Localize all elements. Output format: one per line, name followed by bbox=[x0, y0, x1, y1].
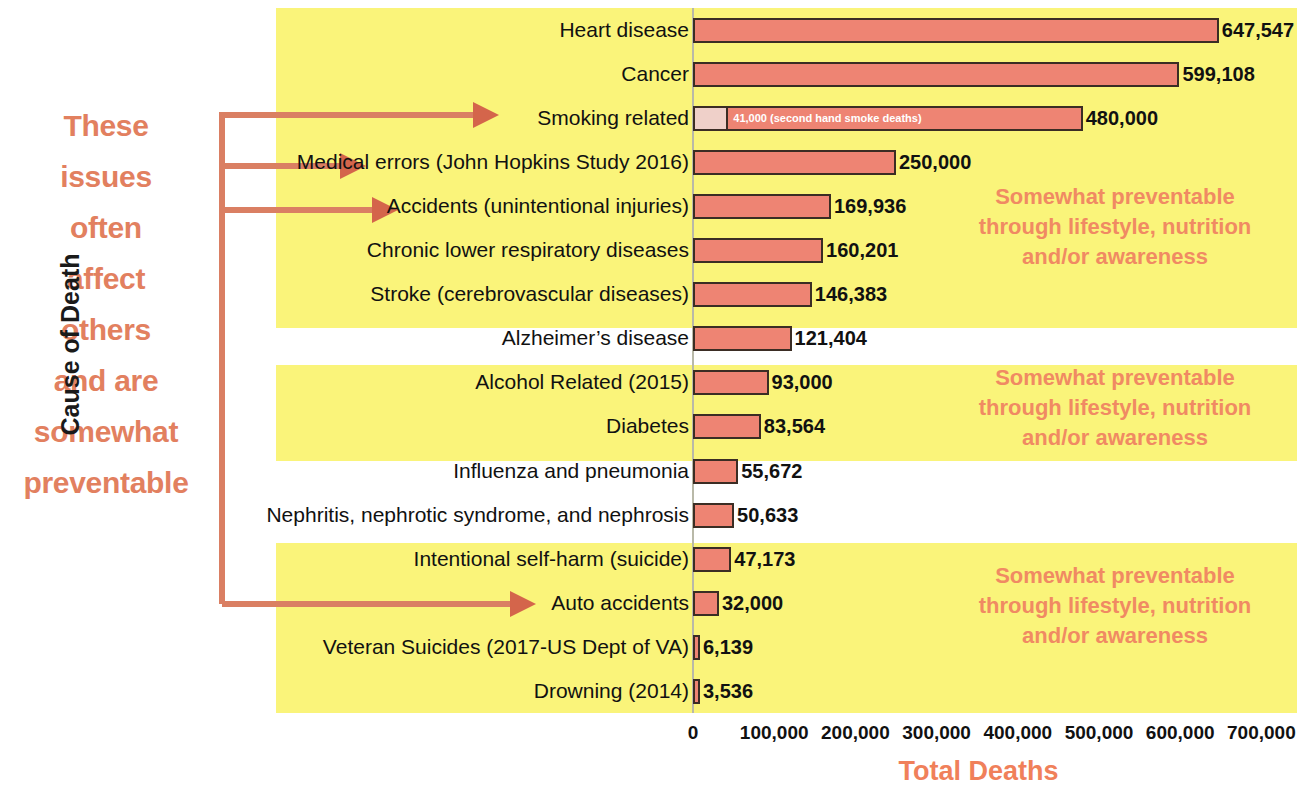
right-annotation-line: through lifestyle, nutrition bbox=[940, 393, 1290, 423]
bar-value-label: 93,000 bbox=[769, 370, 833, 395]
bar-row: Stroke (cerebrovascular diseases)146,383 bbox=[0, 272, 1297, 316]
x-axis-tick-label: 500,000 bbox=[1065, 722, 1134, 744]
bar: 41,000 (second hand smoke deaths) bbox=[693, 106, 1083, 131]
x-axis-tick-label: 0 bbox=[688, 722, 699, 744]
x-axis-tick-label: 300,000 bbox=[902, 722, 971, 744]
category-label: Drowning (2014) bbox=[534, 669, 689, 713]
category-label: Smoking related bbox=[537, 96, 689, 140]
bar bbox=[693, 459, 738, 484]
bar-row: Heart disease647,547 bbox=[0, 8, 1297, 52]
bar bbox=[693, 18, 1219, 43]
bar-row: Cancer599,108 bbox=[0, 52, 1297, 96]
bar-sub-segment-label: 41,000 (second hand smoke deaths) bbox=[728, 108, 921, 129]
bar-value-label: 47,173 bbox=[731, 547, 795, 572]
category-label: Veteran Suicides (2017-US Dept of VA) bbox=[323, 625, 689, 669]
bar bbox=[693, 238, 823, 263]
right-annotation-line: and/or awareness bbox=[940, 621, 1290, 651]
bar bbox=[693, 194, 831, 219]
bar-value-label: 50,633 bbox=[734, 503, 798, 528]
right-annotation-line: through lifestyle, nutrition bbox=[940, 212, 1290, 242]
bar bbox=[693, 62, 1179, 87]
category-label: Cancer bbox=[621, 52, 689, 96]
bar-value-label: 480,000 bbox=[1083, 106, 1158, 131]
bar-value-label: 121,404 bbox=[792, 326, 867, 351]
bar bbox=[693, 635, 700, 660]
x-axis-tick-label: 200,000 bbox=[821, 722, 890, 744]
x-axis-tick-label: 600,000 bbox=[1146, 722, 1215, 744]
right-annotation-1: Somewhat preventable through lifestyle, … bbox=[940, 182, 1290, 272]
bar-value-label: 55,672 bbox=[738, 459, 802, 484]
bar bbox=[693, 370, 769, 395]
bar-sub-segment bbox=[695, 108, 728, 129]
bar bbox=[693, 547, 731, 572]
bar-value-label: 647,547 bbox=[1219, 18, 1294, 43]
bar bbox=[693, 150, 896, 175]
x-axis-tick-label: 400,000 bbox=[983, 722, 1052, 744]
category-label: Alzheimer’s disease bbox=[502, 316, 689, 360]
bar-row: Influenza and pneumonia55,672 bbox=[0, 449, 1297, 493]
bar-value-label: 599,108 bbox=[1179, 62, 1254, 87]
bar-value-label: 32,000 bbox=[719, 591, 783, 616]
right-annotation-line: and/or awareness bbox=[940, 242, 1290, 272]
bar-row: Medical errors (John Hopkins Study 2016)… bbox=[0, 140, 1297, 184]
category-label: Influenza and pneumonia bbox=[453, 449, 689, 493]
category-label: Medical errors (John Hopkins Study 2016) bbox=[297, 140, 689, 184]
bar bbox=[693, 282, 812, 307]
bar-value-label: 6,139 bbox=[700, 635, 753, 660]
category-label: Stroke (cerebrovascular diseases) bbox=[370, 272, 689, 316]
bar-value-label: 146,383 bbox=[812, 282, 887, 307]
bar-row: Alzheimer’s disease121,404 bbox=[0, 316, 1297, 360]
bar bbox=[693, 591, 719, 616]
bar-row: Nephritis, nephrotic syndrome, and nephr… bbox=[0, 493, 1297, 537]
category-label: Accidents (unintentional injuries) bbox=[387, 184, 689, 228]
category-label: Diabetes bbox=[606, 404, 689, 448]
x-axis-tick-label: 700,000 bbox=[1227, 722, 1296, 744]
category-label: Auto accidents bbox=[551, 581, 689, 625]
bar-row: Drowning (2014)3,536 bbox=[0, 669, 1297, 713]
right-annotation-line: Somewhat preventable bbox=[940, 182, 1290, 212]
category-label: Chronic lower respiratory diseases bbox=[367, 228, 689, 272]
right-annotation-line: through lifestyle, nutrition bbox=[940, 591, 1290, 621]
x-axis-tick-label: 100,000 bbox=[740, 722, 809, 744]
right-annotation-line: Somewhat preventable bbox=[940, 561, 1290, 591]
bar-value-label: 83,564 bbox=[761, 414, 825, 439]
category-label: Intentional self-harm (suicide) bbox=[414, 537, 689, 581]
x-axis-ticks: 0100,000200,000300,000400,000500,000600,… bbox=[0, 722, 1297, 750]
bar-row: Smoking related41,000 (second hand smoke… bbox=[0, 96, 1297, 140]
right-annotation-3: Somewhat preventable through lifestyle, … bbox=[940, 561, 1290, 651]
bar-value-label: 160,201 bbox=[823, 238, 898, 263]
bar-value-label: 3,536 bbox=[700, 679, 753, 704]
x-axis-title: Total Deaths bbox=[660, 756, 1297, 787]
bar bbox=[693, 503, 734, 528]
right-annotation-line: and/or awareness bbox=[940, 423, 1290, 453]
category-label: Alcohol Related (2015) bbox=[475, 360, 689, 404]
right-annotation-line: Somewhat preventable bbox=[940, 363, 1290, 393]
bar bbox=[693, 414, 761, 439]
bar bbox=[693, 326, 792, 351]
category-label: Nephritis, nephrotic syndrome, and nephr… bbox=[266, 493, 689, 537]
bar-value-label: 169,936 bbox=[831, 194, 906, 219]
bar-value-label: 250,000 bbox=[896, 150, 971, 175]
right-annotation-2: Somewhat preventable through lifestyle, … bbox=[940, 363, 1290, 453]
bar bbox=[693, 679, 700, 704]
category-label: Heart disease bbox=[559, 8, 689, 52]
